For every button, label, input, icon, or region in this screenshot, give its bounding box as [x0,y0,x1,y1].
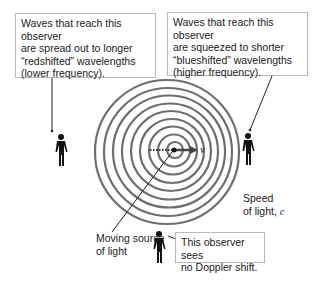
callout-text: This observer sees [181,236,259,261]
wavefront-rings [95,80,239,224]
label-text: Moving source [96,232,164,245]
velocity-label: v [200,143,205,157]
callout-text: “redshifted” wavelengths [21,55,150,68]
callout-text: are spread out to longer [21,42,150,55]
source-dot [172,148,177,153]
observer-left-figure [56,134,68,166]
callout-blueshift: Waves that reach this observer are squee… [167,12,308,76]
callout-text: Waves that reach this observer [173,16,302,41]
label-text: of light, c [243,205,284,219]
label-text: of light [96,245,164,258]
callout-text: Waves that reach this observer [21,17,150,42]
callout-text: are squeezed to shorter [173,41,302,54]
label-text: Speed [243,192,284,205]
observer-right-figure [243,133,255,165]
source-label: Moving source of light [96,232,164,257]
callout-text: (higher frequency). [173,66,302,79]
callout-text: no Doppler shift. [181,261,259,274]
callout-redshift: Waves that reach this observer are sprea… [15,13,156,78]
speed-of-light-label: Speed of light, c [243,192,284,218]
callout-text: (lower frequency). [21,67,150,80]
callout-text: “blueshifted” wavelengths [173,54,302,67]
callout-no-shift: This observer sees no Doppler shift. [175,232,265,263]
